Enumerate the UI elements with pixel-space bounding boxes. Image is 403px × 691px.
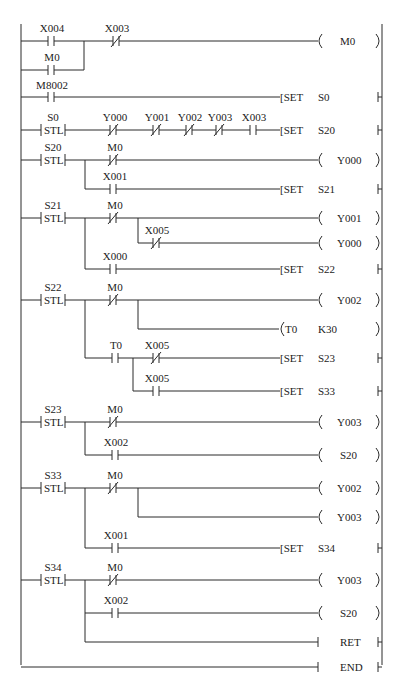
label-y001: Y001: [145, 111, 169, 123]
stl-box-s21: STL: [44, 212, 64, 224]
label-x000: X000: [103, 250, 128, 262]
instr-set: [SET: [280, 542, 304, 554]
coil-y000: Y000: [337, 154, 362, 166]
label-m0: M0: [44, 51, 60, 63]
label-t0: T0: [110, 339, 123, 351]
label-x003: X003: [105, 22, 130, 34]
label-x001: X001: [104, 529, 128, 541]
contact-m0-parallel: [48, 65, 54, 75]
coil-s20: S20: [340, 449, 358, 461]
label-stl-s21: S21: [44, 199, 61, 211]
coil-y003: Y003: [337, 574, 362, 586]
label-m0: M0: [107, 281, 123, 293]
set-arg-s21: S21: [318, 183, 335, 195]
coil-s20: S20: [340, 607, 358, 619]
coil-y000: Y000: [337, 237, 362, 249]
rung-8: STL S33 M0 Y002 Y003 X001 [SET S34: [21, 469, 382, 554]
rung-2: M8002 [SET S0: [21, 79, 382, 103]
label-m0: M0: [107, 199, 123, 211]
set-arg-s22: S22: [318, 263, 335, 275]
set-arg-s0: S0: [318, 91, 330, 103]
label-x005-no: X005: [145, 372, 170, 384]
label-stl-s34: S34: [44, 561, 62, 573]
rung-7: STL S23 M0 Y003 X002 S20: [21, 403, 379, 462]
rung-9: STL S34 M0 Y003 X002 S20 RET: [21, 561, 382, 648]
coil-y003: Y003: [337, 511, 362, 523]
instr-set: [SET: [280, 263, 304, 275]
label-y000: Y000: [103, 111, 128, 123]
label-x004: X004: [40, 22, 65, 34]
ladder-diagram: X004 M0 X003 M0 M8002 [SET S0 STL S0: [0, 0, 403, 691]
rung-6: STL S22 M0 Y002 T0 K30 T0 X005 [SET S23 …: [21, 281, 382, 397]
label-x001: X001: [103, 170, 127, 182]
coil-right-icon: [376, 34, 379, 48]
coil-y001: Y001: [337, 212, 361, 224]
label-stl-s20: S20: [44, 141, 62, 153]
instr-set: [SET: [280, 124, 304, 136]
rung-10: END: [21, 661, 382, 673]
instr-end: END: [340, 661, 363, 673]
rung-4: STL S20 M0 Y000 X001 [SET S21: [21, 141, 382, 195]
label-m0: M0: [107, 469, 123, 481]
stl-box-s22: STL: [44, 294, 64, 306]
stl-box-s20: STL: [44, 154, 64, 166]
set-arg-s20: S20: [318, 124, 336, 136]
label-x002: X002: [104, 436, 128, 448]
instr-ret: RET: [340, 636, 361, 648]
label-x005: X005: [145, 224, 170, 236]
set-arg-s23: S23: [318, 352, 336, 364]
label-m0: M0: [107, 403, 123, 415]
stl-box-s23: STL: [44, 416, 64, 428]
label-m0: M0: [107, 141, 123, 153]
coil-left-icon: [319, 34, 322, 48]
stl-box-s33: STL: [44, 482, 64, 494]
instr-set: [SET: [280, 385, 304, 397]
rung-1: X004 M0 X003 M0: [21, 22, 379, 75]
coil-m0: M0: [340, 35, 356, 47]
coil-y002: Y002: [337, 482, 361, 494]
rung-5: STL S21 M0 Y001 X005 Y000 X000 [SET S22: [21, 199, 382, 275]
set-arg-s34: S34: [318, 542, 336, 554]
instr-set: [SET: [280, 352, 304, 364]
label-m0: M0: [107, 561, 123, 573]
rung-3: STL S0 Y000 Y001 Y002 Y003 X003 [SET S20: [21, 111, 382, 136]
label-x002: X002: [104, 594, 128, 606]
label-x003-no: X003: [242, 111, 267, 123]
instr-set: [SET: [280, 91, 304, 103]
set-arg-s33: S33: [318, 385, 336, 397]
timer-coil-left-icon: [281, 322, 284, 336]
label-x005-nc: X005: [145, 339, 170, 351]
label-stl-s0: S0: [47, 111, 59, 123]
label-stl-s23: S23: [44, 403, 62, 415]
timer-t0: T0: [285, 323, 298, 335]
stl-box-s0: STL: [44, 124, 64, 136]
label-m8002: M8002: [36, 79, 68, 91]
contact-x004: [48, 36, 54, 46]
label-y002: Y002: [178, 111, 202, 123]
stl-box-s34: STL: [44, 574, 64, 586]
label-stl-s22: S22: [44, 281, 61, 293]
label-stl-s33: S33: [44, 469, 62, 481]
coil-y003: Y003: [337, 416, 362, 428]
timer-preset-k30: K30: [318, 323, 337, 335]
label-y003: Y003: [208, 111, 233, 123]
instr-set: [SET: [280, 183, 304, 195]
coil-y002: Y002: [337, 294, 361, 306]
